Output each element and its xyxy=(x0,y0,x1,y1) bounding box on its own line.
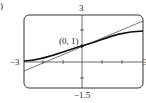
x-max-label: 3 xyxy=(143,58,146,67)
y-min-label: −1.5 xyxy=(74,91,90,100)
viewing-window-frame xyxy=(24,15,143,88)
panel-label: ) xyxy=(0,2,3,11)
graph-canvas xyxy=(0,0,146,103)
point-annotation: (0, 1) xyxy=(59,37,79,46)
x-min-label: −3 xyxy=(10,58,20,67)
y-max-label: 3 xyxy=(79,4,84,13)
point-of-tangency xyxy=(81,45,84,48)
